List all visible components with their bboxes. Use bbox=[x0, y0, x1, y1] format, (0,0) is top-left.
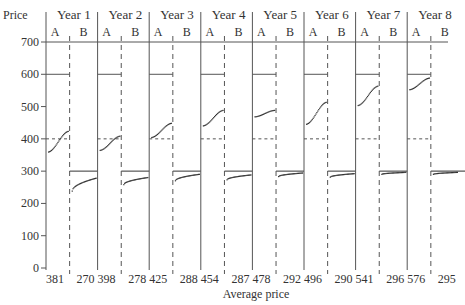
data-point-a bbox=[213, 117, 214, 118]
avg-price-b: 278 bbox=[128, 272, 146, 286]
data-point-a bbox=[313, 116, 314, 117]
avg-price-b: 287 bbox=[231, 272, 249, 286]
avg-price-a: 541 bbox=[356, 272, 374, 286]
y-tick-label: 300 bbox=[21, 164, 39, 178]
subgroup-label-a: A bbox=[257, 25, 266, 39]
data-point-b bbox=[175, 180, 176, 181]
y-tick-label: 700 bbox=[21, 35, 39, 49]
data-point-a bbox=[366, 97, 367, 98]
x-axis-title: Average price bbox=[223, 287, 290, 301]
data-point-a bbox=[377, 86, 378, 87]
data-point-a bbox=[429, 78, 430, 79]
data-point-a bbox=[368, 95, 369, 96]
subgroup-label-b: B bbox=[286, 25, 294, 39]
data-point-a bbox=[372, 90, 373, 91]
y-axis-title: Price bbox=[3, 8, 28, 22]
data-point-b bbox=[457, 172, 458, 173]
data-point-a bbox=[311, 120, 312, 121]
data-point-a bbox=[362, 102, 363, 103]
data-point-a bbox=[60, 138, 61, 139]
data-point-a bbox=[59, 139, 60, 140]
subgroup-label-a: A bbox=[360, 25, 369, 39]
avg-price-a: 398 bbox=[98, 272, 116, 286]
avg-price-b: 295 bbox=[438, 272, 456, 286]
data-point-a bbox=[321, 105, 322, 106]
price-chart: 0100200300400500600700PriceYear 1AB38127… bbox=[0, 0, 465, 305]
data-point-a bbox=[68, 131, 69, 132]
year-label: Year 6 bbox=[315, 7, 349, 22]
subgroup-label-a: A bbox=[102, 25, 111, 39]
subgroup-label-a: A bbox=[309, 25, 318, 39]
year-label: Year 2 bbox=[109, 7, 143, 22]
data-point-b bbox=[199, 174, 200, 175]
avg-price-a: 478 bbox=[252, 272, 270, 286]
data-point-a bbox=[310, 121, 311, 122]
data-point-a bbox=[274, 110, 275, 111]
data-point-a bbox=[211, 119, 212, 120]
subgroup-label-b: B bbox=[80, 25, 88, 39]
avg-price-a: 425 bbox=[149, 272, 167, 286]
y-tick-label: 0 bbox=[33, 261, 39, 275]
avg-price-b: 288 bbox=[180, 272, 198, 286]
data-point-a bbox=[367, 96, 368, 97]
data-point-a bbox=[312, 119, 313, 120]
data-point-b bbox=[72, 191, 73, 192]
y-tick-label: 200 bbox=[21, 196, 39, 210]
data-point-b bbox=[302, 172, 303, 173]
y-tick-label: 100 bbox=[21, 229, 39, 243]
year-label: Year 1 bbox=[57, 7, 91, 22]
data-point-a bbox=[53, 148, 54, 149]
data-point-b bbox=[405, 172, 406, 173]
data-point-a bbox=[316, 112, 317, 113]
data-point-a bbox=[58, 140, 59, 141]
avg-price-a: 496 bbox=[304, 272, 322, 286]
avg-price-b: 292 bbox=[283, 272, 301, 286]
avg-price-a: 576 bbox=[407, 272, 425, 286]
data-point-a bbox=[55, 145, 56, 146]
data-point-a bbox=[57, 142, 58, 143]
chart-container: 0100200300400500600700PriceYear 1AB38127… bbox=[0, 0, 465, 305]
data-point-b bbox=[147, 177, 148, 178]
year-label: Year 3 bbox=[160, 7, 194, 22]
data-point-a bbox=[212, 118, 213, 119]
data-point-a bbox=[365, 99, 366, 100]
data-point-a bbox=[364, 100, 365, 101]
year-label: Year 8 bbox=[418, 7, 452, 22]
data-point-b bbox=[250, 174, 251, 175]
avg-price-b: 270 bbox=[77, 272, 95, 286]
year-label: Year 4 bbox=[212, 7, 246, 22]
data-point-a bbox=[363, 101, 364, 102]
data-point-a bbox=[171, 123, 172, 124]
data-point-a bbox=[318, 109, 319, 110]
data-point-a bbox=[222, 110, 223, 111]
data-point-a bbox=[369, 93, 370, 94]
data-point-a bbox=[61, 136, 62, 137]
subgroup-label-b: B bbox=[183, 25, 191, 39]
subgroup-label-b: B bbox=[441, 25, 449, 39]
data-point-a bbox=[54, 147, 55, 148]
avg-price-a: 454 bbox=[201, 272, 219, 286]
data-point-a bbox=[315, 113, 316, 114]
data-point-a bbox=[62, 135, 63, 136]
avg-price-b: 290 bbox=[335, 272, 353, 286]
data-point-a bbox=[317, 110, 318, 111]
data-point-a bbox=[55, 146, 56, 147]
subgroup-label-b: B bbox=[389, 25, 397, 39]
data-point-b bbox=[96, 178, 97, 179]
subgroup-label-b: B bbox=[234, 25, 242, 39]
y-tick-label: 500 bbox=[21, 100, 39, 114]
data-point-a bbox=[326, 102, 327, 103]
data-point-a bbox=[319, 108, 320, 109]
data-point-a bbox=[320, 106, 321, 107]
data-point-b bbox=[354, 173, 355, 174]
subgroup-label-a: A bbox=[154, 25, 163, 39]
data-point-a bbox=[314, 115, 315, 116]
subgroup-label-b: B bbox=[338, 25, 346, 39]
data-point-a bbox=[371, 91, 372, 92]
data-point-a bbox=[370, 92, 371, 93]
data-point-a bbox=[56, 143, 57, 144]
year-label: Year 5 bbox=[263, 7, 297, 22]
subgroup-label-b: B bbox=[131, 25, 139, 39]
data-point-a bbox=[119, 136, 120, 137]
subgroup-label-a: A bbox=[51, 25, 60, 39]
